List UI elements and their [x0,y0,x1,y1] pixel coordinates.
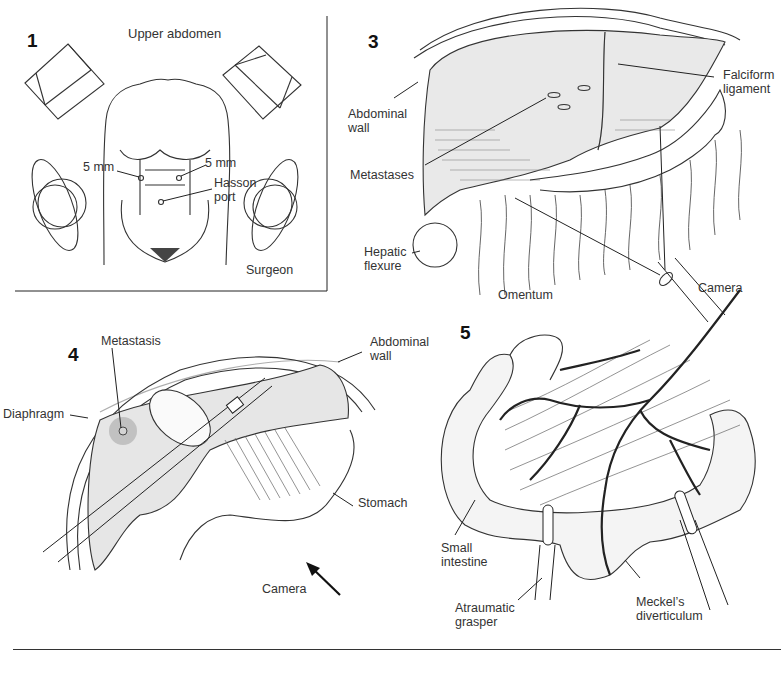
panel-number: 4 [68,344,79,366]
label-omentum: Omentum [498,288,553,302]
label-metastases: Metastases [350,168,414,182]
label-atraumatic-grasper: Atraumatic grasper [455,601,515,629]
panel-number: 5 [460,322,471,344]
label-stomach: Stomach [358,496,407,510]
monitor-right-icon [223,46,301,119]
monitor-left-icon [25,44,104,119]
port-right-marker [177,176,182,181]
label-hasson-port: Hasson port [214,176,256,204]
label-surgeon: Surgeon [246,263,293,277]
bottom-divider [13,649,781,650]
panel-5-small-intestine-view: 5 Small intestine Atraumatic grasper Mec… [410,310,781,630]
label-hepatic-flexure: Hepatic flexure [364,245,406,273]
panel-4-diaphragm-view: 4 Metastasis Diaphragm Abdominal wall St… [0,300,430,620]
panel-number: 1 [27,30,38,52]
surgeon-figure-icon [243,154,308,256]
liver-lobe-shape [88,365,348,570]
panel-4-illustration [0,300,430,620]
label-small-intestine: Small intestine [441,541,488,569]
panel-5-illustration [410,310,781,630]
label-falciform-ligament: Falciform ligament [723,68,774,96]
label-5mm-left: 5 mm [83,160,114,174]
label-abdominal-wall: Abdominal wall [348,107,407,135]
port-left-marker [139,176,144,181]
liver-shape [423,31,725,215]
panel-1-illustration [0,0,330,295]
label-5mm-right: 5 mm [205,156,236,170]
assistant-figure-icon [23,154,88,256]
intestine-loop [441,354,755,579]
label-camera: Camera [262,582,306,596]
label-metastasis: Metastasis [101,334,161,348]
panel-3-liver-view: 3 Abdominal wall Metastases Hepatic flex… [330,0,781,320]
panel-1-port-placement: 1 Upper abdomen 5 mm 5 mm Hasson port Su… [0,0,330,295]
label-camera: Camera [698,281,742,295]
title-upper-abdomen: Upper abdomen [128,27,221,41]
label-diaphragm: Diaphragm [3,407,64,421]
panel-number: 3 [368,31,379,53]
hasson-port-marker [159,200,164,205]
label-meckels-diverticulum: Meckel’s diverticulum [636,595,703,623]
